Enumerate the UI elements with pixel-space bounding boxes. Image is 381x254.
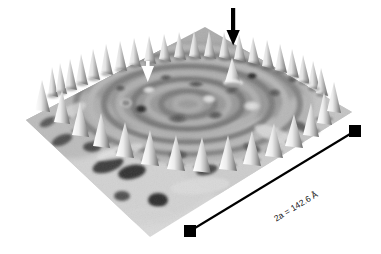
black-down-arrow-icon: [227, 8, 240, 46]
stm-figure: 2a = 142.6 Å: [0, 0, 381, 254]
scale-bar-endpoint-right: [349, 125, 361, 137]
stm-surface-render: [0, 0, 381, 254]
scale-bar-endpoint-left: [184, 225, 196, 237]
